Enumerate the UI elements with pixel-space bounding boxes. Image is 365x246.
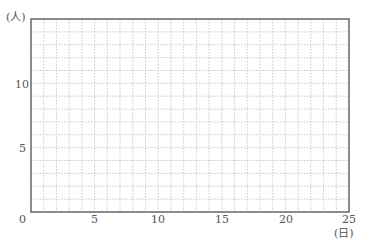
x-tick-10: 10	[151, 214, 165, 225]
y-axis-unit-label: (人)	[6, 12, 26, 23]
origin-label: 0	[19, 214, 26, 225]
x-axis-unit-label: (日)	[334, 228, 354, 239]
plot-border	[31, 19, 349, 212]
grid-lines	[31, 19, 349, 212]
y-tick-5: 5	[19, 143, 26, 154]
x-tick-25: 25	[342, 214, 356, 225]
x-tick-15: 15	[215, 214, 229, 225]
x-tick-20: 20	[279, 214, 293, 225]
chart	[0, 0, 365, 246]
y-tick-10: 10	[15, 79, 29, 90]
x-tick-5: 5	[91, 214, 98, 225]
